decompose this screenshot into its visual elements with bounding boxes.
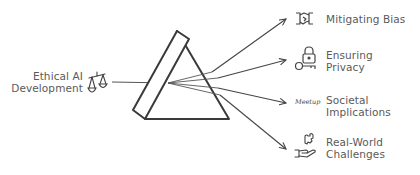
output-label-mitigating-bias: Mitigating Bias (326, 13, 405, 25)
output-label-line1: Real-World (326, 136, 385, 148)
input-label-line2: Development (3, 82, 83, 94)
output-label-societal-implications: Societal Implications (326, 94, 391, 118)
arrow-ensuring-privacy (218, 60, 286, 78)
output-label-line1: Societal (326, 94, 391, 106)
prism-shape (133, 31, 229, 119)
input-label-line1: Ethical AI (3, 70, 83, 82)
input-label: Ethical AI Development (3, 70, 83, 94)
output-label-line1: Mitigating Bias (326, 13, 405, 25)
hand-puzzle-icon (295, 134, 315, 157)
arrow-mitigating-bias (212, 19, 286, 72)
output-label-ensuring-privacy: Ensuring Privacy (326, 49, 373, 73)
scales-icon (88, 72, 107, 92)
output-label-line2: Implications (326, 106, 391, 118)
meetup-icon-text: Meetup (294, 98, 321, 106)
output-label-line2: Challenges (326, 148, 385, 160)
arrow-real-world-challenges (220, 95, 286, 149)
output-label-line1: Ensuring (326, 49, 373, 61)
output-label-real-world-challenges: Real-World Challenges (326, 136, 385, 160)
output-label-line2: Privacy (326, 61, 373, 73)
meetup-icon: Meetup (294, 98, 321, 106)
arrow-societal-implications (218, 88, 286, 103)
output-arrows (212, 19, 286, 149)
ethical-ai-prism-diagram: Meetup Ethical AI Development Mitigating… (0, 0, 420, 175)
lock-key-icon (296, 47, 316, 70)
handshake-icon (296, 13, 313, 24)
